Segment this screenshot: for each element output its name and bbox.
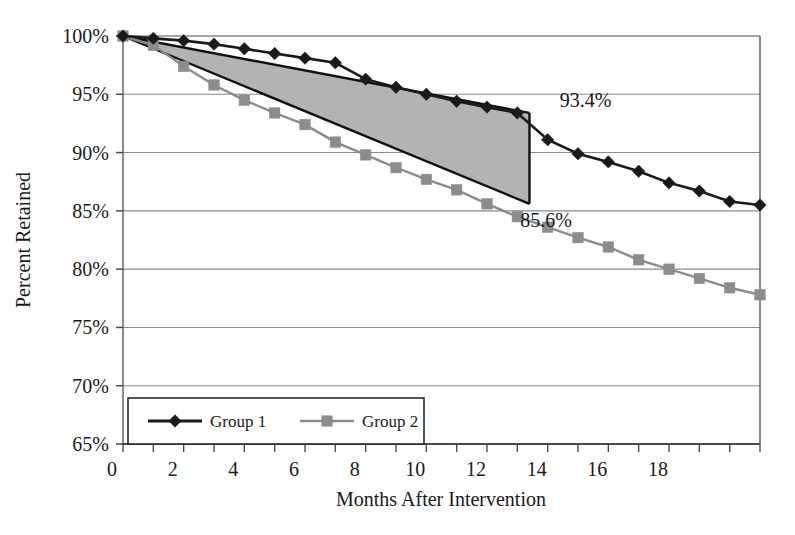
data-point-marker [269,108,279,118]
data-point-marker [724,283,734,293]
data-point-marker [664,264,674,274]
chart-container: 65%70%75%80%85%90%95%100% 02468101214161… [0,0,795,535]
chart-background [0,0,795,535]
x-tick-label-12: 12 [466,458,486,480]
legend-label-2: Group 2 [362,412,418,431]
retention-line-chart: 65%70%75%80%85%90%95%100% 02468101214161… [0,0,795,535]
y-tick-label-100: 100% [62,25,109,47]
x-tick-label-0: 0 [107,458,117,480]
legend-marker-2 [322,416,332,426]
annotation-upper-endpoint: 93.4% [560,89,612,111]
data-point-marker [633,255,643,265]
y-tick-label-95: 95% [72,83,109,105]
data-point-marker [421,174,431,184]
data-point-marker [209,80,219,90]
y-tick-label-85: 85% [72,200,109,222]
x-tick-label-16: 16 [587,458,607,480]
x-tick-label-4: 4 [228,458,238,480]
y-axis-title: Percent Retained [12,172,34,308]
x-tick-label-14: 14 [527,458,547,480]
y-tick-label-75: 75% [72,316,109,338]
legend-label-1: Group 1 [210,412,266,431]
data-point-marker [330,137,340,147]
data-point-marker [239,95,249,105]
data-point-marker [360,150,370,160]
data-point-marker [482,199,492,209]
x-axis-title: Months After Intervention [336,488,546,510]
y-tick-label-70: 70% [72,375,109,397]
x-tick-label-6: 6 [289,458,299,480]
data-point-marker [451,185,461,195]
data-point-marker [694,273,704,283]
annotation-lower-endpoint: 85.6% [520,209,572,231]
data-point-marker [603,242,613,252]
x-tick-label-10: 10 [405,458,425,480]
data-point-marker [755,290,765,300]
x-tick-label-8: 8 [350,458,360,480]
y-tick-label-90: 90% [72,142,109,164]
data-point-marker [391,163,401,173]
y-tick-label-80: 80% [72,258,109,280]
x-tick-label-2: 2 [168,458,178,480]
chart-legend: Group 1Group 2 [128,398,424,444]
x-tick-label-18: 18 [648,458,668,480]
data-point-marker [178,61,188,71]
y-tick-label-65: 65% [72,433,109,455]
data-point-marker [573,232,583,242]
data-point-marker [300,119,310,129]
